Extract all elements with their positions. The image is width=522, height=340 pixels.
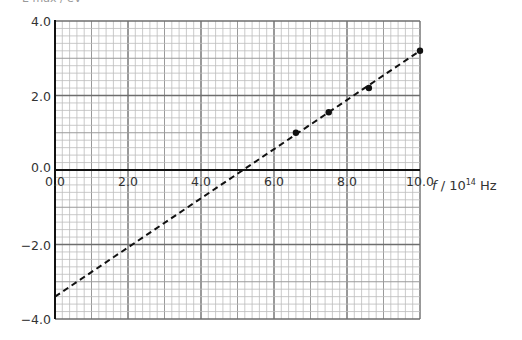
- y-tick-label: 0.0: [31, 160, 51, 175]
- y-tick-label: 2.0: [31, 89, 51, 104]
- x-tick-label: 4.0: [191, 174, 211, 189]
- x-axis-unit-tail: Hz: [476, 178, 497, 193]
- data-point: [366, 85, 372, 91]
- y-tick-label: 4.0: [31, 14, 51, 29]
- x-tick-label: 8.0: [337, 174, 357, 189]
- x-axis-title: f / 1014 Hz: [432, 178, 497, 193]
- chart: 0.02.04.06.08.010.04.02.00.0−2.0−4.0 f /…: [0, 0, 522, 340]
- x-tick-label: 0.0: [45, 174, 65, 189]
- x-tick-label: 2.0: [118, 174, 138, 189]
- x-tick-label: 10.0: [406, 174, 434, 189]
- y-tick-label: −2.0: [21, 238, 51, 253]
- x-axis-unit-exponent: 14: [466, 178, 476, 187]
- y-tick-label: −4.0: [21, 312, 51, 327]
- x-tick-label: 6.0: [264, 174, 284, 189]
- x-axis-unit-base: / 10: [437, 178, 466, 193]
